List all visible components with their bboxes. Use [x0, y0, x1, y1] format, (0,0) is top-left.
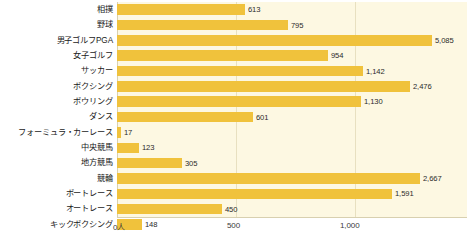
bar-track: 1,130	[117, 94, 383, 109]
bar-row: オートレース450	[0, 201, 470, 216]
bar-track: 613	[117, 2, 260, 17]
bar-value-label: 601	[256, 113, 268, 122]
bar-value-label: 954	[331, 51, 343, 60]
bar-track: 17	[117, 125, 132, 140]
bar-category-label: ボウリング	[0, 94, 113, 109]
bar-row: ボウリング1,130	[0, 94, 470, 109]
bar-segment	[117, 204, 222, 215]
x-tick-label-0: 0人	[113, 221, 125, 232]
bar-track: 450	[117, 201, 237, 216]
bar-segment	[117, 20, 288, 31]
bar-category-label: 野球	[0, 17, 113, 32]
bar-segment	[117, 189, 392, 200]
bar-segment	[117, 127, 121, 138]
bar-segment	[117, 50, 328, 61]
bar-rows: 相撲613野球795男子ゴルフPGA5,085女子ゴルフ954サッカー1,142…	[0, 2, 470, 217]
bar-row: サッカー1,142	[0, 63, 470, 78]
x-tick-label-500: 500	[227, 221, 240, 230]
bar-track: 5,085	[117, 33, 454, 48]
bar-category-label: ダンス	[0, 109, 113, 124]
bar-value-label: 123	[142, 143, 154, 152]
bar-value-label: 5,085	[435, 36, 454, 45]
bar-value-label: 148	[145, 220, 157, 229]
bar-row: フォーミュラ・カーレース17	[0, 125, 470, 140]
bar-category-label: 男子ゴルフPGA	[0, 33, 113, 48]
bar-value-label: 1,591	[395, 189, 414, 198]
bar-value-label: 17	[124, 128, 132, 137]
bar-value-label: 305	[185, 159, 197, 168]
bar-category-label: ボートレース	[0, 186, 113, 201]
bar-row: ボクシング2,476	[0, 79, 470, 94]
bar-category-label: キックボクシング	[0, 217, 113, 232]
bar-row: 地方競馬305	[0, 155, 470, 170]
bar-chart: 相撲613野球795男子ゴルフPGA5,085女子ゴルフ954サッカー1,142…	[0, 0, 470, 243]
bar-value-label: 2,667	[423, 174, 442, 183]
bar-value-label: 2,476	[413, 82, 432, 91]
bar-track: 2,667	[117, 171, 442, 186]
bar-segment	[117, 158, 182, 169]
bar-value-label: 450	[225, 205, 237, 214]
bar-row: ダンス601	[0, 109, 470, 124]
x-tick-label-1000: 1,000	[340, 221, 360, 230]
bar-segment	[117, 66, 363, 77]
bar-segment	[117, 173, 420, 184]
bar-track: 601	[117, 109, 268, 124]
bar-track: 123	[117, 140, 154, 155]
bar-category-label: 中央競馬	[0, 140, 113, 155]
bar-segment	[117, 96, 361, 107]
bar-track: 1,142	[117, 63, 385, 78]
bar-value-label: 795	[291, 21, 303, 30]
bar-track: 795	[117, 17, 303, 32]
bar-category-label: 相撲	[0, 2, 113, 17]
bar-segment	[117, 81, 410, 92]
bar-category-label: 競輪	[0, 171, 113, 186]
bar-category-label: 地方競馬	[0, 155, 113, 170]
bar-row: 競輪2,667	[0, 171, 470, 186]
bar-category-label: ボクシング	[0, 79, 113, 94]
bar-row: 相撲613	[0, 2, 470, 17]
bar-category-label: オートレース	[0, 201, 113, 216]
bar-row: 中央競馬123	[0, 140, 470, 155]
bar-row: ボートレース1,591	[0, 186, 470, 201]
bar-segment	[117, 112, 253, 123]
bar-value-label: 613	[248, 5, 260, 14]
bar-segment	[117, 4, 245, 15]
bar-row: 野球795	[0, 17, 470, 32]
bar-category-label: サッカー	[0, 63, 113, 78]
bar-track: 2,476	[117, 79, 432, 94]
bar-segment	[117, 35, 432, 46]
bar-track: 1,591	[117, 186, 414, 201]
bar-category-label: 女子ゴルフ	[0, 48, 113, 63]
bar-category-label: フォーミュラ・カーレース	[0, 125, 113, 140]
bar-row: 男子ゴルフPGA5,085	[0, 33, 470, 48]
bar-track: 954	[117, 48, 343, 63]
bar-row: 女子ゴルフ954	[0, 48, 470, 63]
bar-track: 305	[117, 155, 197, 170]
bar-segment	[117, 143, 139, 154]
bar-value-label: 1,142	[366, 67, 385, 76]
bar-value-label: 1,130	[364, 97, 383, 106]
